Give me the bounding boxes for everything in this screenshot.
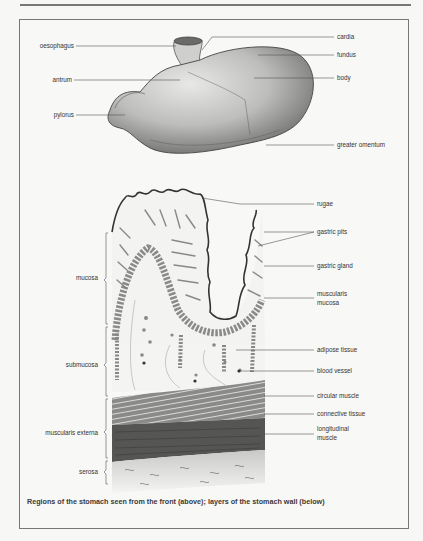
stomach-external xyxy=(108,37,313,153)
label-blood-vessel: blood vessel xyxy=(317,367,352,375)
label-mucosa: mucosa xyxy=(22,274,98,282)
label-circular-muscle: circular muscle xyxy=(317,392,359,400)
label-gastric-pits: gastric pits xyxy=(317,228,347,236)
label-body: body xyxy=(337,74,351,82)
label-muscularis-externa: muscularis externa xyxy=(20,429,98,437)
label-rugae: rugae xyxy=(317,200,333,208)
label-pylorus: pylorus xyxy=(22,111,74,119)
label-muscularis-mucosa-line2: mucosa xyxy=(317,299,339,307)
label-fundus: fundus xyxy=(337,51,356,59)
label-longitudinal-muscle-line2: muscle xyxy=(317,434,337,442)
label-connective-tissue: connective tissue xyxy=(317,410,365,418)
label-antrum: antrum xyxy=(22,76,72,84)
label-muscularis-mucosa-line1: muscularis xyxy=(317,290,347,298)
label-greater-omentum: greater omentum xyxy=(337,141,385,149)
label-adipose-tissue: adipose tissue xyxy=(317,346,357,354)
stomach-wall-section xyxy=(112,189,265,493)
label-submucosa: submucosa xyxy=(22,361,98,369)
layer-braces xyxy=(104,233,108,484)
label-cardia: cardia xyxy=(337,33,354,41)
figure-caption: Regions of the stomach seen from the fro… xyxy=(27,497,407,507)
label-serosa: serosa xyxy=(22,468,98,476)
label-longitudinal-muscle-line1: longitudinal xyxy=(317,425,349,433)
label-gastric-gland: gastric gland xyxy=(317,262,353,270)
label-oesophagus: oesophagus xyxy=(22,42,74,50)
